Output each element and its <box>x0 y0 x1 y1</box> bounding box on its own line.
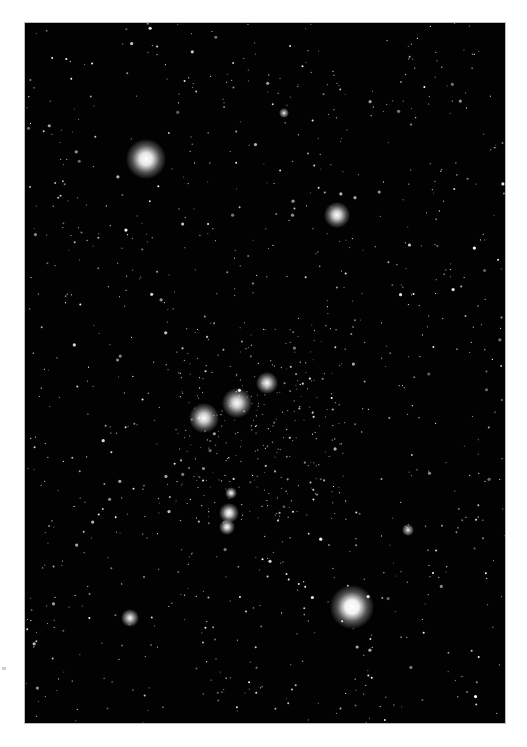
star-saiph <box>121 609 139 627</box>
margin-artifact <box>2 667 6 670</box>
star-belt-east <box>256 372 278 394</box>
star-right-star <box>402 524 414 536</box>
star-belt-middle <box>222 388 252 418</box>
star-head-meissa <box>279 108 289 118</box>
star-sword-upper <box>225 487 237 499</box>
star-betelgeuse <box>126 139 166 179</box>
star-rigel <box>330 585 374 629</box>
page <box>0 0 527 747</box>
star-field-photo <box>25 23 505 723</box>
star-sword-lower <box>219 519 235 535</box>
star-bellatrix <box>324 202 350 228</box>
star-belt-west <box>189 403 219 433</box>
